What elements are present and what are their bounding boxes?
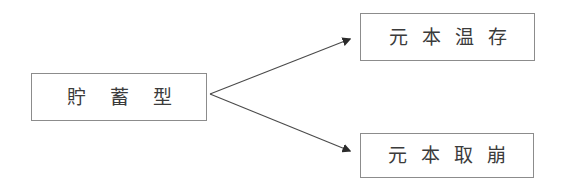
node-savings-type-label: 貯蓄型: [43, 88, 196, 107]
node-principal-drawdown-label: 元本取崩: [374, 146, 520, 165]
node-principal-preservation: 元本温存: [360, 13, 535, 61]
node-principal-drawdown: 元本取崩: [360, 133, 534, 178]
connector-arrow-to-principal-drawdown: [210, 94, 350, 151]
connector-arrow-to-principal-preservation: [210, 39, 350, 94]
diagram-canvas: 貯蓄型 元本温存 元本取崩: [0, 0, 564, 186]
node-principal-preservation-label: 元本温存: [375, 28, 521, 47]
node-savings-type: 貯蓄型: [31, 73, 207, 121]
